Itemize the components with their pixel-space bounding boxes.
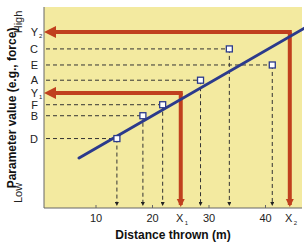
- point-D: [114, 136, 120, 142]
- x-special-label-X2: X: [285, 212, 293, 224]
- y-label-C: C: [30, 43, 38, 55]
- point-E: [269, 62, 275, 68]
- y-special-sub-Y1: 1: [39, 94, 43, 100]
- y-axis-title: Parameter value (e.g., force): [5, 28, 19, 189]
- x-special-sub-X1: 1: [185, 220, 189, 226]
- y-special-sub-Y2: 2: [39, 33, 43, 39]
- y-label-B: B: [31, 110, 38, 122]
- chart: Y1Y2DBFACE10203040X1X2 High Low Paramete…: [0, 0, 304, 247]
- x-tick-label-30: 30: [203, 212, 215, 224]
- point-F: [160, 102, 166, 108]
- x-special-label-X1: X: [176, 212, 184, 224]
- point-B: [140, 113, 146, 119]
- y-label-E: E: [31, 59, 38, 71]
- y-label-D: D: [30, 133, 38, 145]
- y-label-F: F: [31, 99, 38, 111]
- point-C: [226, 46, 232, 52]
- x-axis-title: Distance thrown (m): [115, 228, 230, 242]
- x-tick-label-40: 40: [259, 212, 271, 224]
- y-special-label-Y1: Y: [31, 87, 39, 99]
- y-special-label-Y2: Y: [31, 26, 39, 38]
- y-label-A: A: [31, 74, 39, 86]
- point-A: [198, 77, 204, 83]
- x-special-sub-X2: 2: [294, 220, 298, 226]
- x-tick-label-20: 20: [146, 212, 158, 224]
- plot-background: [44, 7, 302, 208]
- x-tick-label-10: 10: [90, 212, 102, 224]
